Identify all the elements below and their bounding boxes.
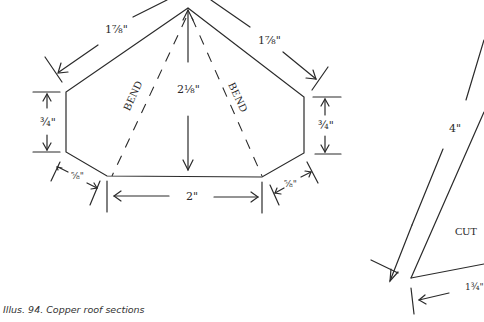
bottom-label: 2" xyxy=(186,191,198,202)
diagram-lines xyxy=(0,0,484,322)
bottom-edge-label: 1¾" xyxy=(465,283,484,292)
height-label: 2⅛" xyxy=(177,84,200,95)
top-right-edge-label: 1⅞" xyxy=(258,35,281,46)
right-section-outer-edge-upper xyxy=(466,40,484,100)
long-dim-line-lower xyxy=(390,225,412,281)
figure-caption: Illus. 94. Copper roof sections xyxy=(3,304,145,315)
right-section-bottom-edge xyxy=(411,264,484,278)
bottom-left-corner-label: ⅝" xyxy=(71,172,84,181)
top-left-dim-line-lower xyxy=(59,45,98,72)
long-dim-line-upper xyxy=(412,149,443,225)
bottom-edge-ext-line xyxy=(411,288,414,314)
top-left-edge-label: 1⅞" xyxy=(105,24,128,35)
top-left-dim-line-upper xyxy=(133,0,167,17)
right-side-label: ¾" xyxy=(318,120,334,131)
cut-label: CUT xyxy=(455,226,477,237)
left-side-label: ¾" xyxy=(40,117,56,128)
top-right-dim-line-lower xyxy=(283,52,316,79)
bottom-left-dim-left xyxy=(58,167,68,172)
right-section-long-edge xyxy=(411,112,484,278)
copper-roof-diagram: 1⅞" 1⅞" 2⅛" ¾" ¾" ⅝" ⅝" 2" BEND BEND 4" … xyxy=(0,0,484,322)
top-right-dim-line-upper xyxy=(211,0,250,27)
bottom-left-ext-outer xyxy=(51,162,60,181)
bottom-right-ext-outer xyxy=(307,162,318,183)
right-bend-line xyxy=(192,18,262,176)
long-dim-extension-line xyxy=(371,260,398,273)
left-bend-line xyxy=(112,18,186,176)
bottom-right-ext-inner xyxy=(270,185,279,205)
long-edge-label: 4" xyxy=(449,123,461,134)
bottom-right-corner-label: ⅝" xyxy=(284,180,297,189)
